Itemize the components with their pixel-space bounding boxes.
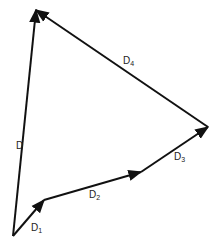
label-d1: D1: [31, 223, 42, 234]
label-d-resultant: D: [16, 141, 23, 152]
label-d4: D4: [123, 56, 134, 67]
vector-diagram: D1 D2 D3 D4 D: [0, 0, 220, 249]
label-d3: D3: [174, 152, 185, 163]
vector-d-arrow: [13, 10, 36, 236]
label-d2: D2: [89, 190, 100, 201]
vector-lines: [0, 0, 220, 249]
vector-d3-arrow: [141, 127, 208, 172]
vector-d4-arrow: [36, 10, 208, 127]
